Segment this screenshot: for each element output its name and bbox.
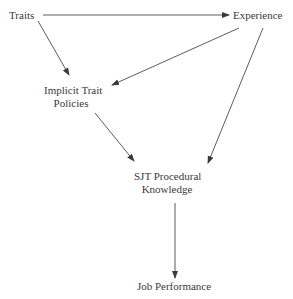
path-diagram: Traits Experience Implicit Trait Policie… bbox=[0, 0, 293, 299]
edge-traits-implicit bbox=[38, 21, 69, 75]
node-sjt-procedural-knowledge: SJT Procedural Knowledge bbox=[134, 170, 200, 196]
arrows-layer bbox=[0, 0, 293, 299]
node-sjt-line1: SJT Procedural bbox=[134, 170, 200, 183]
node-experience: Experience bbox=[233, 9, 282, 22]
node-job-label: Job Performance bbox=[137, 280, 211, 292]
node-traits-label: Traits bbox=[9, 9, 34, 21]
node-sjt-line2: Knowledge bbox=[134, 183, 200, 196]
node-implicit-line2: Policies bbox=[44, 97, 98, 110]
node-implicit-line1: Implicit Trait bbox=[44, 84, 98, 97]
node-implicit-trait-policies: Implicit Trait Policies bbox=[44, 84, 98, 110]
node-experience-label: Experience bbox=[233, 9, 282, 21]
node-traits: Traits bbox=[9, 9, 34, 22]
node-job-performance: Job Performance bbox=[134, 280, 214, 293]
edge-experience-sjt bbox=[208, 28, 263, 163]
edge-implicit-sjt bbox=[95, 113, 134, 161]
edge-experience-implicit bbox=[112, 28, 239, 85]
